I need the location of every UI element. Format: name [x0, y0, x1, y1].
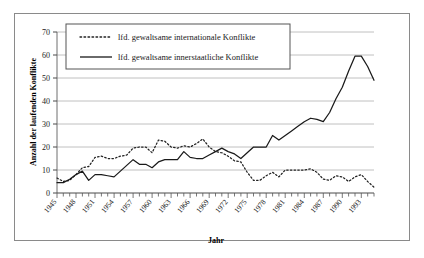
x-tick-label-1969: 1969 — [194, 197, 211, 214]
y-tick-label-0: 0 — [46, 189, 50, 198]
x-tick-label-1963: 1963 — [156, 197, 173, 214]
x-tick-label-1957: 1957 — [118, 197, 135, 214]
x-tick-label-1960: 1960 — [137, 197, 154, 214]
legend-box — [66, 24, 290, 69]
x-tick-label-1945: 1945 — [42, 197, 59, 214]
x-tick-label-1993: 1993 — [346, 197, 363, 214]
x-axis-title: Jahr — [208, 236, 224, 245]
y-tick-label-70: 70 — [42, 28, 50, 37]
y-tick-label-30: 30 — [42, 120, 50, 129]
legend-label-international: lfd. gewaltsame internationale Konflikte — [118, 32, 256, 42]
legend-label-internal: lfd. gewaltsame innerstaatliche Konflikt… — [118, 52, 258, 62]
x-tick-label-1978: 1978 — [251, 197, 268, 214]
y-tick-label-60: 60 — [42, 51, 50, 60]
y-tick-label-20: 20 — [42, 143, 50, 152]
chart-legend: lfd. gewaltsame internationale Konflikte… — [66, 24, 290, 69]
x-tick-label-1954: 1954 — [99, 197, 116, 214]
x-tick-label-1972: 1972 — [213, 197, 230, 214]
x-axis-tick-labels: 1945194819511954195719601963196619691972… — [42, 197, 363, 214]
x-tick-label-1948: 1948 — [61, 197, 78, 214]
y-tick-label-50: 50 — [42, 74, 50, 83]
x-axis-ticks — [57, 193, 374, 198]
x-tick-label-1990: 1990 — [327, 197, 344, 214]
x-tick-label-1984: 1984 — [289, 197, 306, 214]
x-tick-label-1975: 1975 — [232, 197, 249, 214]
x-tick-label-1966: 1966 — [175, 197, 192, 214]
y-tick-label-10: 10 — [42, 166, 50, 175]
x-tick-label-1987: 1987 — [308, 197, 325, 214]
x-tick-label-1951: 1951 — [80, 197, 97, 214]
y-tick-label-40: 40 — [42, 97, 50, 106]
x-tick-label-1981: 1981 — [270, 197, 287, 214]
conflict-line-chart: 010203040506070 194519481951195419571960… — [0, 0, 424, 258]
y-axis-title: Anzahl der laufenden Konflikte — [29, 58, 38, 167]
figure-container: 010203040506070 194519481951195419571960… — [0, 0, 424, 258]
y-axis-ticks: 010203040506070 — [42, 28, 57, 198]
